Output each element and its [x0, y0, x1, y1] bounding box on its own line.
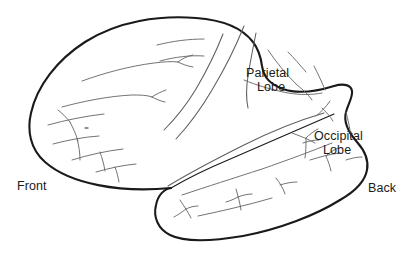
brain-diagram-figure: Front Back Parietal Lobe Occipital Lobe: [0, 0, 417, 257]
frontal-sulcus-short-2: [53, 136, 99, 144]
back-label: Back: [368, 181, 396, 195]
parietal-lobe-label-line1: Parietal: [246, 66, 289, 80]
occipital-sulcus-lower-stem: [326, 156, 331, 171]
middle-frontal-sulcus-fork-b: [178, 62, 193, 67]
parietal-lobe-label-line2: Lobe: [246, 80, 289, 94]
inferior-frontal-sulcus-fork-b: [152, 97, 165, 102]
occipital-lobe-label-line2: Lobe: [314, 143, 363, 157]
lateral-sulcus: [168, 113, 324, 186]
occipital-lobe-label: Occipital Lobe: [314, 129, 363, 157]
parietal-sulcus-a: [288, 52, 306, 72]
frontal-sulcus-short-2-stem: [77, 139, 80, 160]
temporal-sulcus-c: [276, 178, 285, 194]
frontal-sulcus-short-1-stem: [70, 122, 78, 141]
temporal-sulcus-a-fork-2: [186, 206, 198, 209]
temporal-lobe-outline: [155, 188, 340, 240]
frontal-pole-sulcus-stem: [115, 167, 119, 182]
temporal-lobe-upper-edge: [171, 114, 334, 188]
inferior-frontal-sulcus-fork-a: [152, 90, 166, 97]
superior-temporal-sulcus: [182, 143, 332, 195]
temporal-sulcus-a-fork-1: [174, 209, 186, 217]
cerebrum-outline-group: [29, 17, 367, 200]
precentral-sulcus: [164, 34, 223, 130]
inferior-temporal-sulcus: [198, 198, 272, 216]
parietal-sulcus-b: [314, 66, 325, 90]
parietal-lobe-label: Parietal Lobe: [246, 66, 289, 94]
temporal-sulcus-c-fork: [280, 182, 297, 185]
lateral-occipital-sulcus: [292, 133, 315, 143]
temporal-sulcus-b-fork-2: [238, 194, 252, 197]
central-sulcus-group: [164, 26, 256, 139]
lateral-sulcus-group: [168, 113, 324, 186]
inferior-frontal-sulcus: [62, 95, 152, 107]
central-sulcus: [176, 26, 244, 139]
frontal-sulcus-short-1: [48, 114, 104, 125]
temporal-sulci-group: [174, 143, 332, 218]
cerebrum-outline: [29, 17, 367, 200]
occipital-lobe-label-line1: Occipital: [314, 129, 363, 143]
superior-frontal-sulcus: [157, 39, 204, 45]
superior-frontal-sulcus-branch: [160, 56, 204, 61]
lateral-occipital-sulcus-stem: [305, 138, 306, 158]
frontal-sulcus-short-1-fork: [58, 110, 70, 122]
front-label: Front: [17, 179, 47, 193]
orbital-sulcus-stem: [100, 152, 105, 171]
middle-frontal-sulcus: [82, 62, 178, 81]
temporal-sulcus-b-fork-1: [226, 197, 238, 202]
occipital-pole-sulcus: [346, 157, 362, 160]
